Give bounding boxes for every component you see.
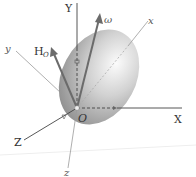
body-x-axis	[128, 21, 148, 46]
label-body-z: z	[63, 167, 70, 177]
ellipsoid-body	[43, 15, 155, 138]
label-omega: ω	[104, 14, 112, 25]
label-Y: Y	[64, 2, 73, 15]
floor-line	[0, 145, 196, 155]
origin-point	[75, 106, 80, 111]
label-body-x: x	[148, 15, 154, 26]
label-X: X	[174, 113, 182, 126]
label-body-y: y	[4, 43, 11, 54]
label-origin: O	[78, 112, 87, 125]
omega-arrowhead-icon	[95, 13, 103, 24]
angular-momentum-arrowhead-icon	[50, 47, 58, 57]
Z-axis	[24, 108, 77, 140]
label-Z: Z	[14, 136, 22, 149]
label-H-subscript: O	[43, 51, 49, 59]
diagram-canvas: Y X Z x y z O ω H O	[0, 0, 196, 177]
